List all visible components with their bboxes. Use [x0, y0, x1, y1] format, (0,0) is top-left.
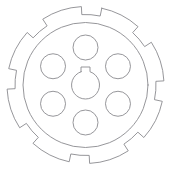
keyed-center-bore-outline: [72, 67, 100, 99]
bolt-hole-3: [105, 91, 130, 116]
bolt-hole-1: [73, 35, 98, 60]
toothed-outer-flange-outline: [7, 7, 164, 164]
technical-drawing-canvas: [0, 0, 170, 171]
inner-disc-rim-circle: [23, 23, 148, 148]
bolt-hole-6: [41, 54, 66, 79]
bolt-hole-5: [41, 91, 66, 116]
bolt-hole-2: [105, 54, 130, 79]
bolt-hole-group: [41, 35, 131, 135]
mechanical-part-drawing: [0, 0, 170, 171]
bolt-hole-4: [73, 110, 98, 135]
